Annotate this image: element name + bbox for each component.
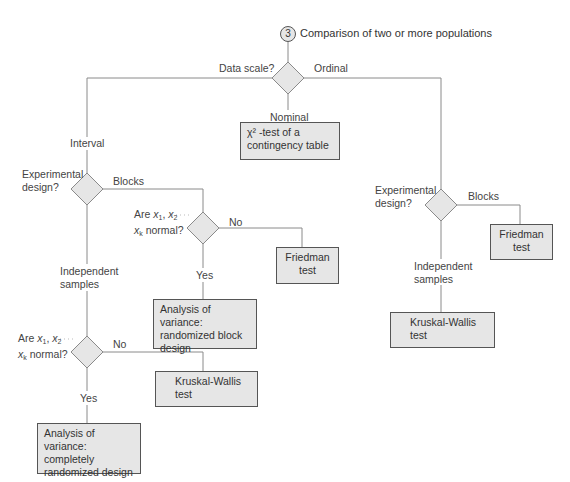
flowchart-connectors	[0, 0, 570, 482]
question-normality-blocks: Are x1, x2 xk normal?	[134, 208, 184, 240]
branch-label-yes: Yes	[196, 269, 213, 282]
branch-label-interval: Interval	[70, 137, 104, 150]
result-text: contingency table	[247, 139, 333, 152]
result-box-kruskal-wallis: Kruskal-Wallis test	[155, 371, 258, 407]
result-box-kruskal-wallis-ordinal: Kruskal-Wallis test	[390, 312, 495, 348]
question-experimental-design: Experimental design?	[22, 168, 83, 194]
result-box-friedman: Friedman test	[276, 247, 339, 284]
question-experimental-design-ordinal: Experimental design?	[375, 184, 436, 210]
step-number-badge: 3	[280, 26, 296, 42]
diagram-title: Comparison of two or more populations	[300, 27, 492, 40]
decision-diamond-normal-independent	[71, 336, 103, 368]
branch-label-yes: Yes	[80, 392, 97, 405]
question-data-scale: Data scale?	[219, 62, 274, 75]
branch-label-independent-samples-ordinal: Independent samples	[414, 260, 472, 286]
result-box-anova-completely-randomized: Analysis of variance: completely randomi…	[37, 423, 141, 474]
branch-label-ordinal: Ordinal	[314, 62, 348, 75]
decision-diamond-data-scale	[272, 62, 304, 94]
branch-label-no: No	[113, 338, 126, 351]
branch-label-blocks-ordinal: Blocks	[468, 190, 499, 203]
branch-label-blocks: Blocks	[113, 175, 144, 188]
branch-label-no: No	[229, 216, 242, 229]
result-text: χ² -test of a	[247, 126, 333, 139]
result-box-friedman-ordinal: Friedman test	[490, 224, 553, 260]
question-normality-independent: Are x1, x2 xk normal?	[18, 332, 68, 364]
result-box-chi-square: χ² -test of a contingency table	[240, 122, 340, 160]
decision-diamond-normal-blocks	[187, 212, 219, 244]
branch-label-independent-samples: Independent samples	[60, 265, 118, 291]
result-box-anova-randomized-block: Analysis of variance: randomized block d…	[153, 299, 257, 349]
